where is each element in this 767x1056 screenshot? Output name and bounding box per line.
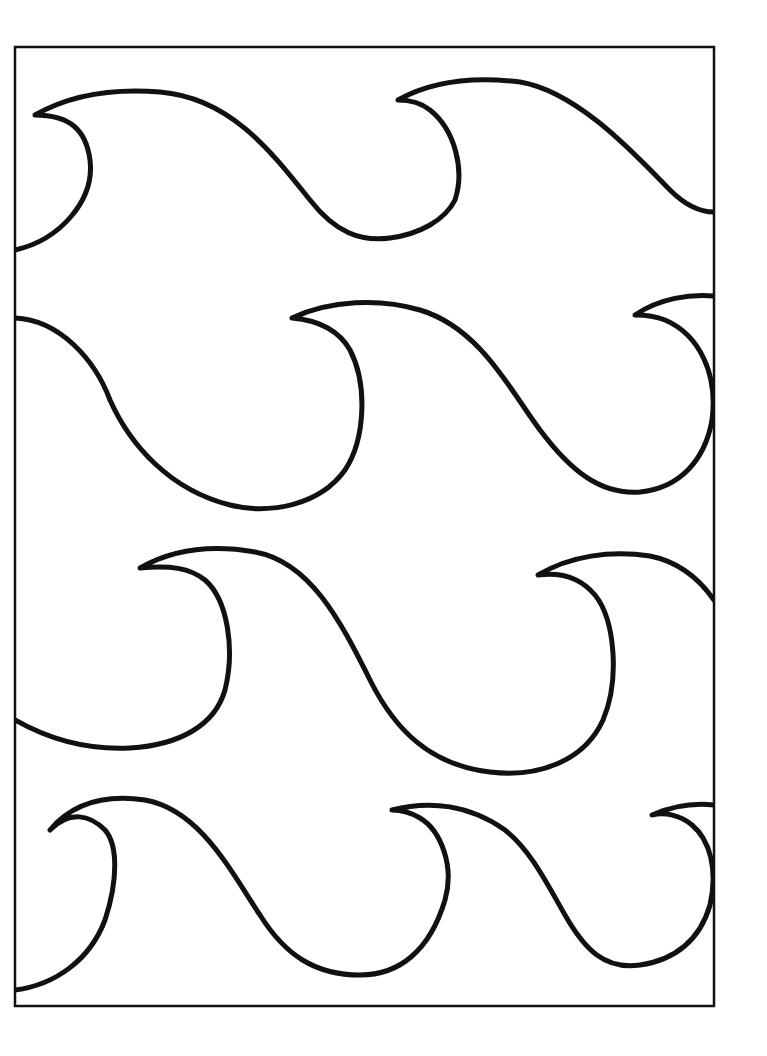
wave-row2-a [15, 296, 714, 509]
wave-row4-a [15, 798, 714, 990]
wave-row1-a [15, 80, 714, 250]
wave-pattern-drawing [0, 0, 767, 1056]
wave-row3-a [15, 549, 714, 774]
frame-border [15, 47, 714, 1006]
